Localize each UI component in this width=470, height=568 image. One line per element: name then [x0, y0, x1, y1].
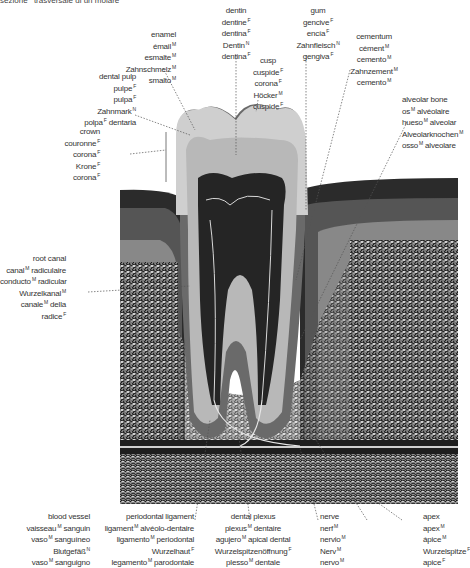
label-periodontal-ligament: periodontal ligament ligamentM alvéolo-d…: [100, 512, 194, 568]
label-blood-vessel: blood vessel vaisseauM sanguin vasoM san…: [20, 512, 90, 568]
molar-tooth: [176, 104, 308, 446]
label-crown: crown couronneF coronaF KroneF coronaF: [50, 127, 100, 183]
label-cementum: cementum cémentM cementoM ZahnzementM ce…: [338, 32, 410, 88]
label-cusp: cusp cuspideF coronaF HöckerM cuspideF: [236, 56, 300, 112]
label-dentin: dentin dentineF dentinaF DentinN dentina…: [200, 6, 272, 62]
label-nerve: nerve nerfM nervioM NervM nervoM: [320, 512, 370, 568]
label-root-canal: root canal canalM radiculaire conductoM …: [0, 254, 66, 321]
label-dental-pulp: dental pulp pulpeF pulpaF ZahnmarkN polp…: [56, 72, 136, 128]
label-alveolar-bone: alveolar bone osM alvéolaire huesoM alve…: [402, 95, 468, 151]
label-apex: apex apexM ápiceM WurzelspitzeF apiceF: [423, 512, 468, 568]
label-dental-plexus: dental plexus plexusM dentaire agujeroM …: [210, 512, 296, 568]
